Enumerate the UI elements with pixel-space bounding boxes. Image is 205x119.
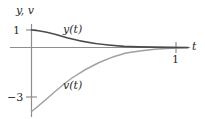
curve-label-v: v(t): [63, 80, 82, 91]
y-tick-label-minus-3: −3: [7, 92, 23, 103]
curve-v: [32, 48, 189, 112]
curve-label-y: y(t): [63, 24, 82, 35]
x-axis-label: t: [192, 41, 196, 52]
exponential-decay-figure: y, v t y(t) v(t) 1 −3 1: [0, 0, 205, 119]
curve-y: [32, 30, 189, 48]
y-axis-label: y, v: [16, 5, 34, 16]
y-tick-label-1: 1: [13, 25, 20, 36]
x-tick-label-1: 1: [172, 54, 179, 65]
